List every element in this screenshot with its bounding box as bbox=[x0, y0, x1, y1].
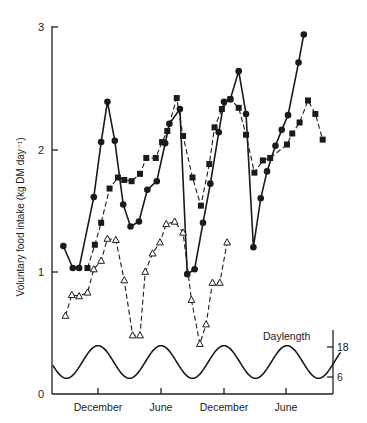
square-marker bbox=[297, 119, 303, 125]
daylength-curve bbox=[53, 346, 341, 379]
circle-marker bbox=[272, 142, 279, 149]
square-marker bbox=[180, 133, 186, 139]
series-line-1 bbox=[88, 98, 323, 268]
chart-canvas: 3 2 1 0 Voluntary food intake (kg DM day… bbox=[0, 0, 367, 423]
square-marker bbox=[227, 96, 233, 102]
triangle-marker bbox=[188, 296, 195, 302]
square-marker bbox=[121, 177, 127, 183]
circle-marker bbox=[250, 244, 257, 251]
x-axis bbox=[52, 388, 333, 394]
series-line-2 bbox=[65, 222, 227, 344]
square-marker bbox=[153, 155, 159, 161]
x-tick-june-1: June bbox=[150, 401, 173, 413]
y-tick-2: 2 bbox=[38, 144, 44, 156]
circle-marker bbox=[60, 243, 67, 250]
square-marker bbox=[107, 186, 113, 192]
food-intake-chart: 3 2 1 0 Voluntary food intake (kg DM day… bbox=[0, 0, 367, 423]
square-marker bbox=[174, 95, 180, 101]
triangle-marker bbox=[98, 257, 105, 263]
triangle-marker bbox=[224, 239, 231, 245]
square-marker bbox=[267, 155, 273, 161]
square-marker bbox=[219, 106, 225, 112]
triangle-marker bbox=[68, 291, 75, 297]
square-marker bbox=[212, 124, 218, 130]
right-tick-6: 6 bbox=[337, 371, 343, 383]
circle-marker bbox=[285, 112, 292, 119]
y-tick-1: 1 bbox=[38, 266, 44, 278]
square-marker bbox=[129, 178, 135, 184]
y-tick-0: 0 bbox=[38, 388, 44, 400]
square-marker bbox=[190, 175, 196, 181]
square-marker bbox=[92, 242, 98, 248]
left-axis bbox=[52, 26, 58, 394]
square-marker bbox=[320, 137, 326, 143]
circle-marker bbox=[154, 178, 161, 185]
square-marker bbox=[305, 97, 311, 103]
square-marker bbox=[260, 157, 266, 163]
circle-marker bbox=[295, 59, 302, 66]
y-axis-label: Voluntary food intake (kg DM day⁻¹) bbox=[15, 138, 26, 297]
circle-marker bbox=[144, 186, 151, 193]
square-marker bbox=[143, 155, 149, 161]
triangle-marker bbox=[137, 332, 144, 338]
triangle-marker bbox=[196, 340, 203, 346]
square-marker bbox=[85, 265, 91, 271]
triangle-marker bbox=[171, 218, 178, 224]
circle-marker bbox=[264, 168, 271, 175]
series-layer bbox=[53, 31, 341, 378]
square-marker bbox=[289, 131, 295, 137]
circle-marker bbox=[177, 106, 184, 113]
circle-marker bbox=[200, 219, 207, 226]
square-marker bbox=[284, 142, 290, 148]
triangle-marker bbox=[112, 236, 119, 242]
square-marker bbox=[98, 220, 104, 226]
square-marker bbox=[164, 128, 170, 134]
x-tick-june-2: June bbox=[275, 401, 298, 413]
daylength-label: Daylength bbox=[263, 330, 310, 342]
circle-marker bbox=[235, 68, 242, 75]
circle-marker bbox=[112, 138, 119, 145]
square-marker bbox=[236, 105, 242, 111]
y-tick-3: 3 bbox=[38, 21, 44, 33]
circle-marker bbox=[98, 139, 105, 146]
circle-marker bbox=[257, 195, 264, 202]
square-marker bbox=[198, 203, 204, 209]
triangle-marker bbox=[62, 312, 69, 318]
x-tick-december-2: December bbox=[200, 401, 249, 413]
circle-marker bbox=[127, 223, 134, 230]
square-marker bbox=[251, 170, 257, 176]
right-tick-18: 18 bbox=[337, 341, 349, 353]
circle-marker bbox=[91, 194, 98, 201]
circle-marker bbox=[301, 31, 308, 38]
circle-marker bbox=[104, 98, 111, 105]
circle-marker bbox=[70, 265, 77, 272]
square-marker bbox=[137, 171, 143, 177]
circle-marker bbox=[243, 111, 250, 118]
square-marker bbox=[312, 111, 318, 117]
circle-marker bbox=[191, 266, 198, 273]
square-marker bbox=[115, 175, 121, 181]
square-marker bbox=[243, 132, 249, 138]
square-marker bbox=[159, 139, 165, 145]
x-tick-december-1: December bbox=[74, 401, 123, 413]
triangle-marker bbox=[163, 220, 170, 226]
circle-marker bbox=[120, 201, 127, 208]
triangle-marker bbox=[84, 289, 91, 295]
circle-marker bbox=[184, 271, 191, 278]
triangle-marker bbox=[121, 277, 128, 283]
square-marker bbox=[206, 161, 212, 167]
triangle-marker bbox=[203, 321, 210, 327]
triangle-marker bbox=[157, 239, 164, 245]
triangle-marker bbox=[142, 268, 149, 274]
right-axis bbox=[327, 330, 333, 394]
triangle-marker bbox=[209, 279, 216, 285]
circle-marker bbox=[207, 180, 214, 187]
circle-marker bbox=[76, 265, 83, 272]
circle-marker bbox=[136, 218, 143, 225]
triangle-marker bbox=[104, 235, 111, 241]
circle-marker bbox=[278, 127, 285, 134]
